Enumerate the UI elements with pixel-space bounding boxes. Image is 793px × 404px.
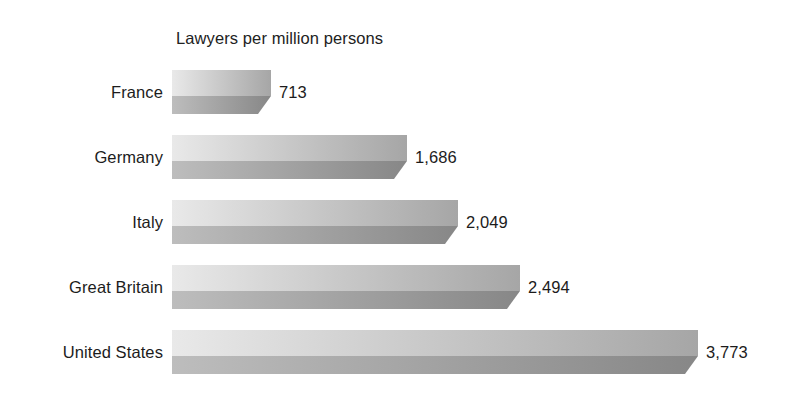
bar-value-label: 3,773 [706, 342, 748, 362]
bar-value-label: 2,494 [528, 277, 570, 297]
bar-top-face [172, 330, 698, 356]
bar [172, 330, 698, 374]
bar-bottom-face [172, 291, 520, 309]
bar-shape [172, 265, 520, 309]
bar [172, 200, 458, 244]
bar-top-face [172, 265, 520, 291]
bar-value-label: 1,686 [415, 147, 457, 167]
bar-bottom-face [172, 96, 271, 114]
bar-shape [172, 70, 271, 114]
bar-row: France713 [0, 68, 793, 116]
bar-row: Germany1,686 [0, 133, 793, 181]
bar [172, 135, 407, 179]
bar-value-label: 2,049 [466, 212, 508, 232]
bar-value-label: 713 [279, 82, 307, 102]
bar-top-face [172, 135, 407, 161]
bar-row: Italy2,049 [0, 198, 793, 246]
bar-bottom-face [172, 161, 407, 179]
category-label: Germany [94, 147, 163, 167]
category-label: Great Britain [69, 277, 163, 297]
category-label: United States [63, 342, 163, 362]
bar-row: United States3,773 [0, 328, 793, 376]
bar-bottom-face [172, 226, 458, 244]
bar-shape [172, 135, 407, 179]
bar [172, 265, 520, 309]
bar-shape [172, 330, 698, 374]
bar-bottom-face [172, 356, 698, 374]
category-label: France [111, 82, 163, 102]
chart-title: Lawyers per million persons [176, 28, 383, 48]
bar-chart: Lawyers per million persons France713Ger… [0, 0, 793, 404]
category-label: Italy [132, 212, 163, 232]
bar-top-face [172, 200, 458, 226]
bar-row: Great Britain2,494 [0, 263, 793, 311]
bar-top-face [172, 70, 271, 96]
bar-shape [172, 200, 458, 244]
bar [172, 70, 271, 114]
